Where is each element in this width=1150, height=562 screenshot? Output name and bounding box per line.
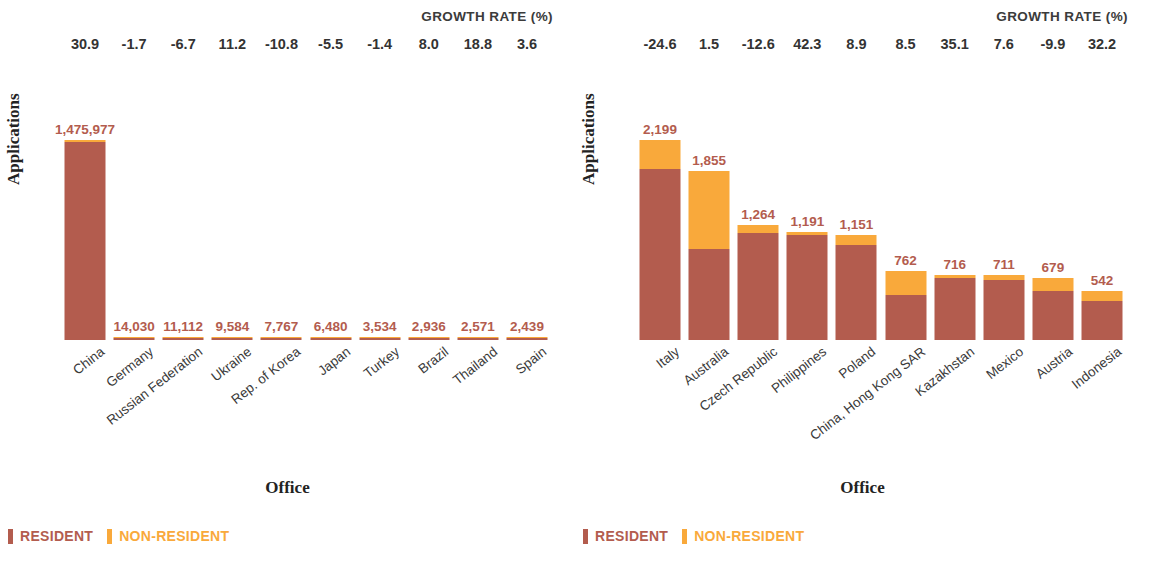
bar-segment-resident[interactable] [114,338,155,340]
chart-panel-left: GROWTH RATE (%) 30.9-1.7-6.711.2-10.8-5.… [0,0,575,562]
bar-group[interactable]: 7,767 [261,337,302,340]
bar-segment-resident[interactable] [457,338,498,340]
bar-segment-resident[interactable] [212,338,253,340]
bar-segment-resident[interactable] [787,235,828,340]
y-axis-title-right: Applications [579,93,599,185]
bar-value-label: 6,480 [314,319,348,334]
bar-segment-resident[interactable] [934,278,975,340]
bar-group[interactable]: 6,480 [310,337,351,340]
category-label: Thailand [450,344,500,388]
category-label: Poland [836,344,878,382]
legend-label-resident: RESIDENT [20,528,93,544]
y-axis-title-left: Applications [4,93,24,185]
bar-segment-resident[interactable] [689,249,730,340]
bar-value-label: 1,191 [790,214,824,229]
x-axis-title-left: Office [0,478,575,498]
x-axis-title-right: Office [575,478,1150,498]
bar-value-label: 9,584 [215,319,249,334]
legend-swatch-resident [8,529,13,544]
bar-value-label: 11,112 [163,319,203,334]
bar-segment-non-resident[interactable] [1032,278,1073,291]
bar-group[interactable]: 711 [983,275,1024,340]
bar-segment-non-resident[interactable] [885,271,926,295]
category-label: Italy [653,344,682,371]
bar-group[interactable]: 2,571 [457,337,498,340]
category-label: Turkey [361,344,402,381]
bar-value-label: 2,199 [643,122,677,137]
legend-right: RESIDENT NON-RESIDENT [583,528,804,544]
legend-item-resident: RESIDENT [583,528,668,544]
bar-group[interactable]: 2,936 [408,337,449,340]
legend-swatch-resident [583,529,588,544]
bar-value-label: 2,571 [461,319,495,334]
bar-value-label: 1,264 [741,207,775,222]
bar-segment-resident[interactable] [1082,301,1123,340]
bar-value-label: 1,855 [692,153,726,168]
bar-group[interactable]: 1,191 [787,232,828,340]
legend-label-non-resident: NON-RESIDENT [694,528,804,544]
legend-item-non-resident: NON-RESIDENT [682,528,804,544]
bar-value-label: 2,936 [412,319,446,334]
bar-segment-resident[interactable] [836,245,877,340]
bar-value-label: 3,534 [363,319,397,334]
bar-group[interactable]: 9,584 [212,337,253,340]
category-label: Spain [513,344,549,377]
bar-value-label: 542 [1091,273,1114,288]
bar-group[interactable]: 14,030 [114,337,155,340]
bar-group[interactable]: 1,151 [836,235,877,340]
bar-segment-resident[interactable] [507,338,548,340]
legend-swatch-non-resident [682,529,687,544]
legend-swatch-non-resident [107,529,112,544]
bar-segment-resident[interactable] [261,338,302,340]
bar-value-label: 679 [1042,260,1065,275]
bar-segment-resident[interactable] [885,295,926,340]
bar-value-label: 14,030 [113,319,154,334]
bar-group[interactable]: 1,264 [738,225,779,340]
chart-panel-right: GROWTH RATE (%) -24.61.5-12.642.38.98.53… [575,0,1150,562]
bar-segment-non-resident[interactable] [836,235,877,245]
bar-value-label: 762 [894,253,917,268]
legend-left: RESIDENT NON-RESIDENT [8,528,229,544]
bar-group[interactable]: 542 [1082,291,1123,340]
bar-segment-resident[interactable] [738,233,779,340]
category-label: Indonesia [1069,344,1124,392]
bar-segment-resident[interactable] [163,338,204,340]
bar-group[interactable]: 11,112 [163,337,204,340]
bar-value-label: 711 [993,257,1015,272]
category-label: Mexico [983,344,1026,382]
bar-value-label: 1,475,977 [55,122,115,137]
bar-value-label: 2,439 [510,319,544,334]
bar-group[interactable]: 2,439 [507,337,548,340]
category-label: Austria [1033,344,1075,382]
bar-segment-resident[interactable] [65,142,106,340]
category-label: Japan [315,344,353,378]
bar-segment-resident[interactable] [1032,291,1073,340]
bar-group[interactable]: 1,475,977 [65,140,106,340]
category-label: Ukraine [209,344,255,384]
bar-group[interactable]: 716 [934,275,975,340]
bar-group[interactable]: 679 [1032,278,1073,340]
category-label: Brazil [415,344,451,377]
bar-segment-non-resident[interactable] [738,225,779,233]
category-label: China [70,344,107,378]
bar-segment-non-resident[interactable] [689,171,730,249]
bar-group[interactable]: 2,199 [640,140,681,340]
bar-segment-resident[interactable] [408,338,449,340]
bar-segment-non-resident[interactable] [1082,291,1123,301]
bar-value-label: 716 [943,257,966,272]
bar-segment-resident[interactable] [983,280,1024,340]
legend-label-resident: RESIDENT [595,528,668,544]
bar-segment-non-resident[interactable] [640,140,681,169]
bar-value-label: 1,151 [840,217,874,232]
bar-value-label: 7,767 [265,319,299,334]
legend-label-non-resident: NON-RESIDENT [119,528,229,544]
legend-item-resident: RESIDENT [8,528,93,544]
bar-segment-resident[interactable] [359,338,400,340]
bar-group[interactable]: 1,855 [689,171,730,340]
bar-group[interactable]: 3,534 [359,337,400,340]
bar-segment-resident[interactable] [640,169,681,340]
bar-segment-resident[interactable] [310,338,351,340]
legend-item-non-resident: NON-RESIDENT [107,528,229,544]
bar-group[interactable]: 762 [885,271,926,340]
